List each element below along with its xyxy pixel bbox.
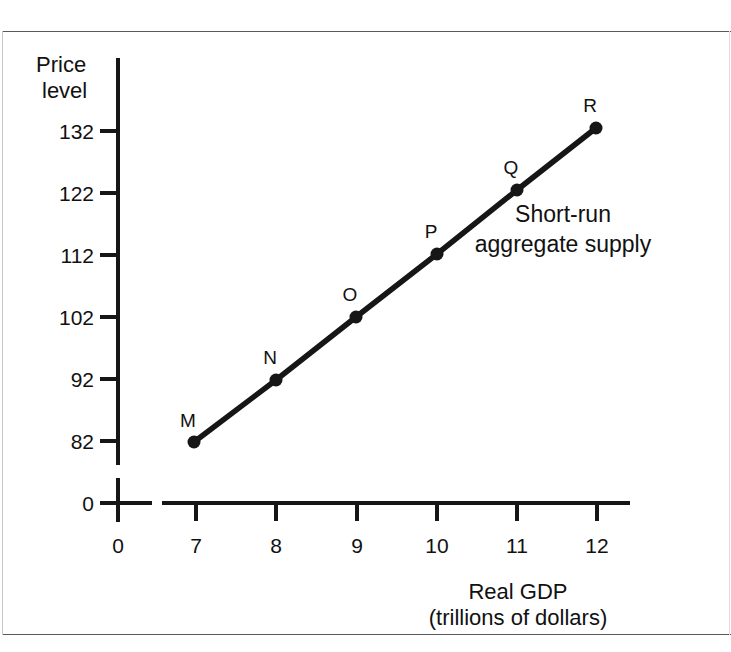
y-tick-label-122: 122 (59, 182, 94, 205)
short-run-aggregate-supply-line (194, 128, 596, 442)
data-point-m (188, 436, 201, 449)
data-point-label-n: N (263, 347, 277, 368)
y-tick-label-132: 132 (59, 120, 94, 143)
x-tick-label-9: 9 (351, 534, 363, 557)
y-axis-title-line1: Price (36, 52, 86, 77)
data-point-p (431, 248, 444, 261)
curve-label-line1: Short-run (515, 201, 611, 227)
data-point-label-p: P (425, 221, 438, 242)
y-tick-label-102: 102 (59, 306, 94, 329)
curve-label-line2: aggregate supply (475, 231, 652, 257)
data-point-label-q: Q (504, 157, 519, 178)
y-tick-label-112: 112 (61, 244, 94, 267)
y-axis-title-line2: level (42, 78, 87, 103)
y-origin-label: 0 (82, 492, 94, 515)
x-tick-label-12: 12 (585, 534, 608, 557)
aggregate-supply-chart: 132 122 112 102 92 82 0 Price level 0 7 … (0, 0, 731, 652)
x-tick-label-7: 7 (190, 534, 202, 557)
x-origin-label: 0 (112, 534, 124, 557)
data-point-label-r: R (583, 95, 597, 116)
x-tick-label-11: 11 (506, 534, 528, 557)
data-point-r (590, 122, 603, 135)
data-point-o (350, 311, 363, 324)
data-point-label-o: O (343, 284, 358, 305)
x-tick-label-8: 8 (270, 534, 282, 557)
x-axis-subtitle: (trillions of dollars) (429, 605, 608, 630)
figure-panel: 132 122 112 102 92 82 0 Price level 0 7 … (0, 0, 731, 652)
data-point-q (511, 184, 524, 197)
x-tick-label-10: 10 (425, 534, 448, 557)
y-tick-label-92: 92 (71, 368, 94, 391)
y-tick-label-82: 82 (71, 430, 94, 453)
data-point-n (270, 374, 283, 387)
x-axis-title: Real GDP (468, 579, 567, 604)
data-point-label-m: M (180, 410, 196, 431)
